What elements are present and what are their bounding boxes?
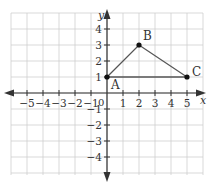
coordinate-plane: −5−4−3−2−112345 4321−1−2−3−4 ABC x y 0 xyxy=(0,0,212,187)
point-label-a: A xyxy=(110,78,120,92)
axes xyxy=(4,9,206,182)
y-tick-label: −4 xyxy=(87,151,103,163)
x-tick-label: −5 xyxy=(19,97,34,109)
point-c xyxy=(184,74,189,79)
point-label-b: B xyxy=(143,29,152,43)
x-tick-label: 5 xyxy=(184,97,191,109)
x-tick-label: 2 xyxy=(136,97,143,109)
x-tick-label: −3 xyxy=(51,97,66,109)
x-axis-label: x xyxy=(200,94,207,107)
x-tick-label: 3 xyxy=(152,97,159,109)
x-tick-label: 4 xyxy=(168,97,175,109)
point-a xyxy=(104,74,109,79)
y-tick-label: 4 xyxy=(95,23,102,35)
y-tick-label: 3 xyxy=(95,39,102,51)
y-tick-label: −3 xyxy=(87,135,102,147)
x-tick-label: −2 xyxy=(67,97,82,109)
point-b xyxy=(136,42,141,47)
y-axis-up-arrow-icon xyxy=(104,9,111,19)
origin-label: 0 xyxy=(98,97,104,108)
y-tick-label: 1 xyxy=(95,71,102,83)
point-label-c: C xyxy=(192,65,201,79)
y-tick-label: 2 xyxy=(95,55,102,67)
x-axis-left-arrow-icon xyxy=(4,90,14,97)
x-tick-label: −4 xyxy=(35,97,51,109)
y-tick-label: −2 xyxy=(87,119,102,131)
y-axis-label: y xyxy=(97,9,105,22)
x-tick-label: 1 xyxy=(120,97,127,109)
y-axis-down-arrow-icon xyxy=(104,172,111,182)
